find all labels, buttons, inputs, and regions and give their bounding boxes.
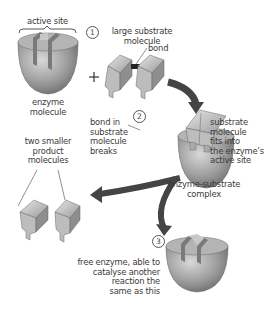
product-molecules — [18, 170, 80, 242]
label-product-molecules: two smaller product molecules — [20, 137, 76, 166]
step-number-1: 1 — [86, 26, 99, 39]
label-bond: bond — [148, 44, 168, 54]
label-active-site: active site — [27, 17, 68, 27]
free-enzyme-line-4: same as this — [60, 287, 160, 297]
complex-line-2: complex — [164, 190, 244, 200]
label-enzyme-substrate-complex: enzyme-substrate complex — [164, 180, 244, 199]
products-line-3: molecules — [20, 156, 76, 166]
plus-sign — [89, 72, 99, 82]
step-number-2: 2 — [133, 110, 146, 123]
label-substrate-fits: substrate molecule fits into the enzyme'… — [210, 118, 264, 166]
active-site-bracket — [19, 26, 76, 33]
free-enzyme-molecule — [166, 234, 228, 292]
fits-line-5: active site — [210, 156, 264, 166]
label-bond-breaks: bond in substrate molecule breaks — [90, 118, 128, 156]
label-enzyme-molecule: enzyme molecule — [24, 98, 72, 117]
arrow-to-complex — [168, 82, 196, 104]
step-number-3: 3 — [152, 235, 165, 248]
enzyme-diagram: active site 1 large substrate molecule b… — [0, 0, 279, 309]
label-free-enzyme: free enzyme, able to catalyse another re… — [60, 258, 160, 296]
bond-breaks-line-4: breaks — [90, 147, 128, 157]
enzyme-line-2: molecule — [24, 108, 72, 118]
enzyme-molecule-1 — [18, 32, 78, 94]
substrate-molecule — [105, 48, 164, 99]
